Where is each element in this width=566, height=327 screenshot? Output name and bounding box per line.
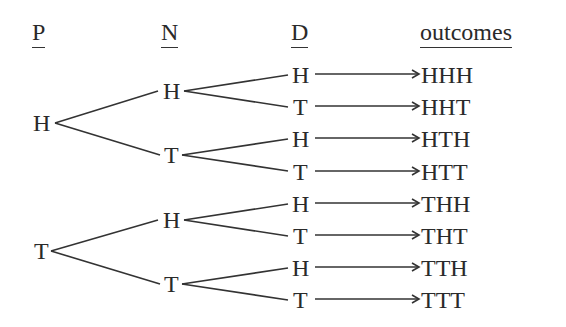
outcome: TTT	[421, 288, 465, 312]
header-outcomes: outcomes	[420, 20, 512, 44]
outcome: HTH	[421, 127, 470, 151]
tree-diagram: P N D outcomes H T H T H T H T H T H T H…	[0, 0, 566, 327]
node-level2: H	[163, 208, 180, 232]
header-n: N	[161, 20, 178, 44]
header-outcomes-label: outcomes	[420, 19, 512, 45]
header-p-label: P	[32, 19, 45, 45]
node-level1: T	[34, 239, 49, 263]
node-level3: H	[292, 63, 309, 87]
underline	[420, 47, 512, 48]
node-level3: H	[292, 256, 309, 280]
underline	[32, 47, 45, 48]
outcome: HHT	[421, 95, 470, 119]
underline	[161, 47, 178, 48]
header-n-label: N	[161, 19, 178, 45]
outcome: HTT	[421, 160, 468, 184]
node-level3: T	[293, 224, 308, 248]
outcome: TTH	[421, 256, 468, 280]
node-level3: T	[293, 288, 308, 312]
outcome: THH	[421, 192, 470, 216]
node-level2: T	[164, 272, 179, 296]
node-level2: H	[163, 79, 180, 103]
node-level3: H	[292, 127, 309, 151]
node-level2: T	[164, 143, 179, 167]
outcome: THT	[421, 224, 468, 248]
header-d-label: D	[291, 19, 308, 45]
header-p: P	[32, 20, 45, 44]
outcome: HHH	[421, 63, 473, 87]
arrows	[315, 70, 419, 303]
node-level3: T	[293, 95, 308, 119]
node-level3: T	[293, 160, 308, 184]
underline	[291, 47, 308, 48]
node-level3: H	[292, 192, 309, 216]
tree-branches	[0, 0, 566, 327]
node-level1: H	[33, 111, 50, 135]
header-d: D	[291, 20, 308, 44]
